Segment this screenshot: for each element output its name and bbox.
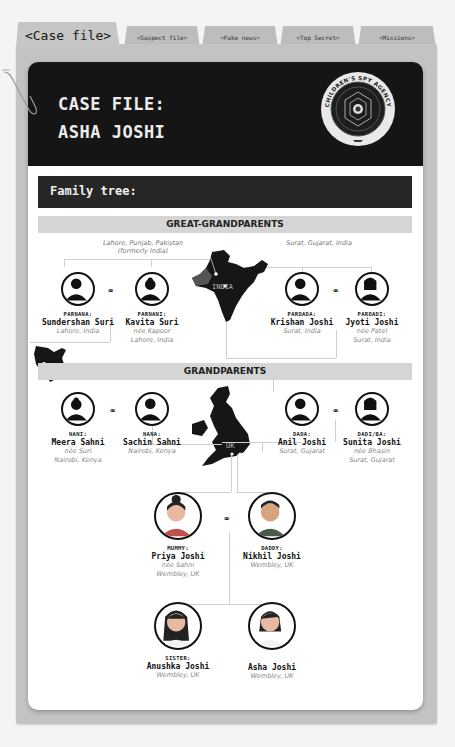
person-detail: née Bhasin: [332, 447, 412, 456]
relation-label: PARDADI:: [332, 311, 412, 317]
person-detail: Wembley, UK: [232, 561, 312, 570]
relation-label: DADA:: [262, 431, 342, 437]
avatar-silhouette-icon: [355, 392, 389, 426]
person-detail: Nairobi, Kenya: [38, 456, 118, 465]
person-name: Kavita Suri: [112, 318, 192, 327]
relation-label: NANA:: [112, 431, 192, 437]
relation-label: PARNANA:: [38, 311, 118, 317]
person-pardada[interactable]: PARDADA: Krishan Joshi Surat, India: [262, 272, 342, 336]
person-mummy[interactable]: MUMMY: Priya Joshi née Sahni Wembley, UK: [138, 492, 218, 579]
tab-case-file[interactable]: <Case file>: [16, 22, 120, 48]
person-detail: Surat, India: [262, 327, 342, 336]
case-file-header: CASE FILE: ASHA JOSHI CHILDREN'S SPY AGE…: [28, 62, 423, 166]
person-name: Asha Joshi: [232, 663, 312, 672]
title-line-2: ASHA JOSHI: [58, 118, 165, 146]
tab-label: <Missions>: [379, 34, 415, 41]
person-name: Sachin Sahni: [112, 438, 192, 447]
map-label-uk: UK: [226, 442, 234, 450]
relation-label: SISTER:: [138, 655, 218, 661]
avatar-asha-icon: [248, 602, 296, 650]
relation-label: DADI/BA:: [332, 431, 412, 437]
person-sister[interactable]: SISTER: Anushka Joshi Wembley, UK: [138, 602, 218, 680]
avatar-mummy-icon: [154, 492, 202, 540]
tab-label: <Suspect file>: [137, 34, 188, 41]
person-detail: Surat, India: [332, 336, 412, 345]
person-detail: Lahore, India: [38, 327, 118, 336]
tree-connector: [30, 342, 110, 343]
tree-connector: [151, 259, 152, 267]
person-detail: Surat, Gujarat: [332, 456, 412, 465]
relation-label: MUMMY:: [138, 545, 218, 551]
case-file-card: CASE FILE: ASHA JOSHI CHILDREN'S SPY AGE…: [28, 62, 423, 710]
map-label-india: INDIA: [212, 283, 233, 291]
avatar-silhouette-icon: [135, 272, 169, 306]
tab-label: <Case file>: [25, 28, 111, 43]
person-detail: née Patel: [332, 327, 412, 336]
person-detail: Wembley, UK: [232, 672, 312, 681]
avatar-silhouette-icon: [355, 272, 389, 306]
person-self[interactable]: Asha Joshi Wembley, UK: [232, 602, 312, 681]
relation-label: DADDY:: [232, 545, 312, 551]
tree-connector: [226, 358, 336, 359]
tab-label: <Top Secret>: [296, 34, 339, 41]
person-dadi[interactable]: DADI/BA: Sunita Joshi née Bhasin Surat, …: [332, 392, 412, 465]
person-detail: Surat, Gujarat: [262, 447, 342, 456]
person-name: Priya Joshi: [138, 552, 218, 561]
avatar-daddy-icon: [248, 492, 296, 540]
person-daddy[interactable]: DADDY: Nikhil Joshi Wembley, UK: [232, 492, 312, 570]
relation-label: PARNANI:: [112, 311, 192, 317]
tree-connector: [237, 454, 238, 492]
tree-connector: [231, 454, 232, 492]
person-name: Krishan Joshi: [262, 318, 342, 327]
person-name: Sundershan Suri: [38, 318, 118, 327]
title-line-1: CASE FILE:: [58, 90, 165, 118]
avatar-silhouette-icon: [61, 392, 95, 426]
uk-map-icon: [188, 384, 268, 474]
relation-label: PARDADA:: [262, 311, 342, 317]
person-detail: Wembley, UK: [138, 671, 218, 680]
avatar-silhouette-icon: [135, 392, 169, 426]
person-nani[interactable]: NANI: Meera Sahni née Suri Nairobi, Keny…: [38, 392, 118, 465]
person-nana[interactable]: NANA: Sachin Sahni Nairobi, Kenya: [112, 392, 192, 456]
person-name: Nikhil Joshi: [232, 552, 312, 561]
section-title: Family tree:: [50, 184, 137, 198]
person-dada[interactable]: DADA: Anil Joshi Surat, Gujarat: [262, 392, 342, 456]
origin-text: Lahore, Punjab, Pakistan: [88, 239, 198, 247]
person-detail: Lahore, India: [112, 336, 192, 345]
person-name: Jyoti Joshi: [332, 318, 412, 327]
origin-text: Surat, Gujarat, India: [264, 239, 374, 247]
origin-note-suri: Lahore, Punjab, Pakistan (formerly India…: [88, 239, 198, 255]
person-parnani[interactable]: PARNANI: Kavita Suri née Kapoor Lahore, …: [112, 272, 192, 345]
person-parnana[interactable]: PARNANA: Sundershan Suri Lahore, India: [38, 272, 118, 336]
origin-note-joshi: Surat, Gujarat, India: [264, 239, 374, 247]
person-name: Anil Joshi: [262, 438, 342, 447]
person-name: Meera Sahni: [38, 438, 118, 447]
tree-connector: [229, 532, 230, 604]
avatar-silhouette-icon: [285, 272, 319, 306]
relation-label: NANI:: [38, 431, 118, 437]
avatar-silhouette-icon: [61, 272, 95, 306]
section-heading: Family tree:: [38, 176, 412, 208]
person-detail: Wembley, UK: [138, 570, 218, 579]
person-detail: née Kapoor: [112, 327, 192, 336]
person-detail: Nairobi, Kenya: [112, 447, 192, 456]
generation-bar-great-grandparents: GREAT-GRANDPARENTS: [38, 216, 412, 233]
tab-label: <Fake news>: [220, 34, 260, 41]
relation-label: [232, 655, 312, 662]
paperclip-icon: [2, 66, 38, 126]
person-detail: née Sahni: [138, 561, 218, 570]
avatar-sister-icon: [154, 602, 202, 650]
generation-bar-grandparents: GRANDPARENTS: [38, 363, 412, 380]
tree-connector: [64, 259, 65, 267]
avatar-silhouette-icon: [285, 392, 319, 426]
spy-agency-badge-icon: CHILDREN'S SPY AGENCY QUESTION EVERYTHIN…: [319, 70, 397, 148]
origin-subtext: (formerly India): [88, 247, 198, 255]
person-name: Anushka Joshi: [138, 662, 218, 671]
person-name: Sunita Joshi: [332, 438, 412, 447]
page-title: CASE FILE: ASHA JOSHI: [58, 90, 165, 146]
person-pardadi[interactable]: PARDADI: Jyoti Joshi née Patel Surat, In…: [332, 272, 412, 345]
marriage-rings-icon: ⚭: [223, 514, 231, 524]
person-detail: née Suri: [38, 447, 118, 456]
